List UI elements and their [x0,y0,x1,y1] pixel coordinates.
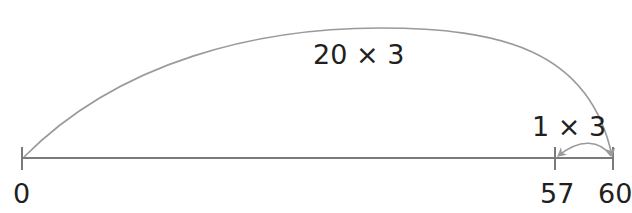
jump-arc-1x3 [558,143,611,156]
tick-label-57: 57 [540,180,574,207]
jump-label-1x3: 1 × 3 [532,113,606,140]
tick-label-60: 60 [598,180,632,207]
jump-label-20x3: 20 × 3 [313,41,404,68]
tick-label-0: 0 [13,180,30,207]
